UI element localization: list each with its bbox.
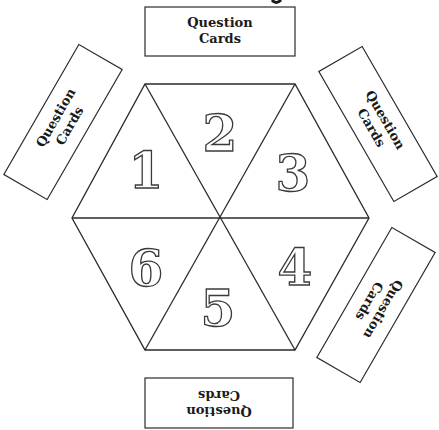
segment-2[interactable]: 2 <box>203 104 238 163</box>
segment-number: 3 <box>276 144 311 203</box>
question-cards-upper-right[interactable]: Question Cards <box>319 47 437 202</box>
title-fragment <box>272 0 281 3</box>
card-label-line1: Question <box>186 404 252 419</box>
question-cards-top[interactable]: Question Cards <box>145 7 295 56</box>
card-label-line2: Cards <box>198 388 240 403</box>
segment-number: 2 <box>203 104 238 163</box>
segment-number: 4 <box>278 238 313 297</box>
game-board-diagram: Question Cards Question Cards Question C… <box>0 0 439 430</box>
question-cards-bottom[interactable]: Question Cards <box>145 378 293 428</box>
card-label-line1: Question <box>187 15 253 30</box>
segment-4[interactable]: 4 <box>278 238 313 297</box>
question-cards-upper-left[interactable]: Question Cards <box>4 45 122 200</box>
question-cards-lower-right[interactable]: Question Cards <box>317 228 435 383</box>
segment-1[interactable]: 1 <box>129 141 164 200</box>
segment-number: 5 <box>201 279 236 338</box>
card-label-line2: Cards <box>199 31 241 46</box>
segment-3[interactable]: 3 <box>276 144 311 203</box>
segment-6[interactable]: 6 <box>129 239 164 298</box>
segment-number: 6 <box>129 239 164 298</box>
segment-5[interactable]: 5 <box>201 279 236 338</box>
segment-number: 1 <box>129 141 164 200</box>
